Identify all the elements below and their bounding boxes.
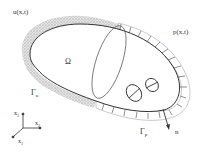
domain-label: Ω [65,57,71,66]
gamma-u-label: Γu [31,88,39,98]
x2-axis-label: x2 [35,120,40,128]
gamma-p-label: Γp [140,127,148,137]
body-outline [30,24,180,112]
diagram-canvas: u(x,t) p(x,t) Ω Γu Γp n x3 x2 x1 [0,0,209,152]
elastic-body-diagram: u(x,t) p(x,t) Ω Γu Γp n x3 x2 x1 [0,0,209,152]
x1-axis-label: x1 [18,138,23,146]
pressure-label: p(x,t) [173,28,189,36]
x3-axis-label: x3 [14,110,19,118]
normal-label: n [175,128,179,136]
displacement-label: u(x,t) [13,8,29,16]
